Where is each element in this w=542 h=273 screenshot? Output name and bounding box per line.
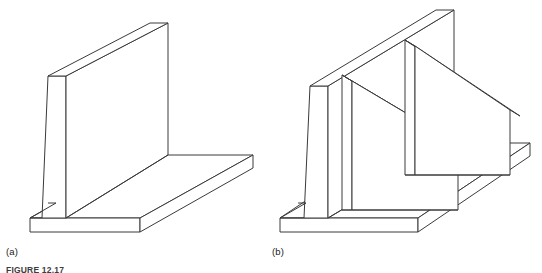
base-slab-front-face — [30, 218, 140, 232]
counterfort-rib-2-far-face — [415, 46, 510, 175]
counterfort-retaining-wall-drawing — [272, 0, 542, 245]
base-slab-front-face-b — [280, 218, 418, 232]
stem-front-face — [42, 76, 66, 218]
counterfort-rib-2-near-face — [405, 40, 415, 175]
stem-front-face-b — [304, 86, 328, 218]
figure-caption: FIGURE 12.17 — [6, 265, 64, 273]
counterfort-rib-1-near-face — [342, 75, 352, 210]
panel-label-a: (a) — [6, 246, 18, 257]
figure-plate: (a) (b) FIGUR — [0, 0, 542, 273]
cantilever-retaining-wall-drawing — [0, 0, 270, 245]
panel-label-b: (b) — [272, 246, 284, 257]
